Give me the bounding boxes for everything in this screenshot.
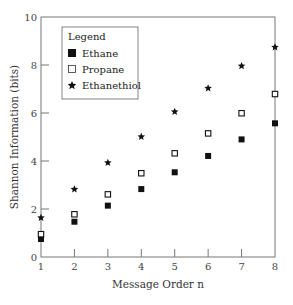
- x-tick-label: 2: [71, 261, 77, 272]
- legend-ethane-label: Ethane: [82, 48, 118, 59]
- ethanethiol-point: [104, 159, 112, 166]
- propane-point: [272, 91, 277, 96]
- ethane-point: [272, 120, 278, 126]
- x-tick-label: 3: [105, 261, 111, 272]
- ethanethiol-point: [171, 108, 179, 115]
- y-tick-label: 0: [31, 252, 37, 263]
- ethane-point: [138, 186, 144, 192]
- y-tick-label: 6: [31, 108, 37, 119]
- x-tick-label: 8: [272, 261, 278, 272]
- y-tick-label: 10: [24, 12, 37, 23]
- scatter-chart: 0246810 12345678 Shannon Information (bi…: [0, 0, 293, 305]
- propane-point: [105, 192, 110, 197]
- legend: Legend Ethane Propane Ethanethiol: [62, 27, 141, 99]
- ethanethiol-point: [204, 84, 212, 91]
- propane-point: [239, 111, 244, 116]
- ethane-point: [205, 153, 211, 159]
- legend-ethanethiol-label: Ethanethiol: [82, 80, 141, 91]
- x-tick-label: 6: [205, 261, 211, 272]
- x-tick-label: 4: [138, 261, 144, 272]
- y-tick-label: 4: [31, 156, 37, 167]
- ethanethiol-point: [137, 133, 145, 140]
- propane-point: [172, 151, 177, 156]
- y-axis-label: Shannon Information (bits): [8, 65, 20, 209]
- x-tick-label: 7: [238, 261, 244, 272]
- ethanethiol-point: [238, 62, 246, 69]
- x-axis-ticks: 12345678: [38, 249, 278, 272]
- propane-point: [38, 232, 43, 237]
- y-axis-ticks: 0246810: [24, 12, 49, 263]
- propane-point: [72, 212, 77, 217]
- x-tick-label: 5: [172, 261, 178, 272]
- legend-title: Legend: [68, 31, 106, 42]
- y-tick-label: 2: [31, 204, 37, 215]
- legend-ethane-marker-icon: [68, 49, 76, 57]
- propane-point: [205, 131, 210, 136]
- ethane-point: [239, 136, 245, 142]
- legend-propane-marker-icon: [69, 66, 76, 73]
- ethane-point: [172, 169, 178, 175]
- ethanethiol-point: [71, 185, 79, 192]
- y-tick-label: 8: [31, 60, 37, 71]
- x-axis-label: Message Order n: [112, 278, 204, 290]
- propane-point: [139, 171, 144, 176]
- legend-propane-label: Propane: [82, 64, 124, 75]
- ethane-point: [71, 219, 77, 225]
- x-tick-label: 1: [38, 261, 44, 272]
- ethane-point: [105, 203, 111, 209]
